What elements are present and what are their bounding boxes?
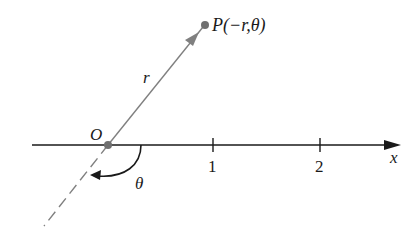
point-p xyxy=(201,21,209,29)
dashed-extension-line xyxy=(44,145,108,226)
ray-arrow-icon xyxy=(185,32,199,46)
ray-r xyxy=(108,27,203,145)
origin-label: O xyxy=(90,125,102,144)
axis-label: x xyxy=(389,148,398,167)
x-axis xyxy=(32,140,401,150)
angle-arc xyxy=(90,145,141,180)
point-label: P(−r,θ) xyxy=(211,15,265,36)
tick-label-1: 1 xyxy=(208,157,217,176)
tick-label-2: 2 xyxy=(315,157,324,176)
angle-label: θ xyxy=(135,174,143,193)
origin-point xyxy=(104,141,112,149)
ray-label: r xyxy=(143,68,150,87)
arc-arrow-icon xyxy=(90,170,101,180)
polar-diagram: P(−r,θ) O r θ x 1 2 xyxy=(0,0,420,233)
